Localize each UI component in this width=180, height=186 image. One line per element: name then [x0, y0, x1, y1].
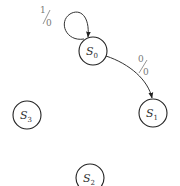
state-s0: S0: [79, 37, 107, 65]
state-diagram: 1 0 0 0 S0 S1 S2: [0, 0, 180, 186]
transition-s0-s0: 1 0: [40, 5, 88, 39]
state-s1: S1: [139, 99, 167, 127]
label-input: 0: [138, 54, 144, 64]
state-s3: S3: [13, 101, 41, 129]
diagram-svg: 1 0 0 0 S0 S1 S2: [0, 0, 180, 186]
self-loop-arrow: [64, 12, 88, 39]
self-loop-label: 1 0: [40, 5, 52, 28]
transition-s0-s1: 0 0: [106, 54, 152, 98]
label-input: 1: [40, 5, 46, 15]
label-output: 0: [46, 18, 52, 28]
state-s2: S2: [76, 164, 104, 186]
arc-label: 0 0: [138, 54, 149, 77]
label-output: 0: [143, 67, 149, 77]
